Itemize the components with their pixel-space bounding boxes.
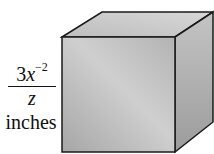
numerator-variable: x [26,63,35,85]
cube-side-face [175,12,213,152]
cube-front-face [62,37,175,152]
fraction-denominator: z [4,88,60,108]
numerator-exponent: −2 [35,60,48,74]
fraction-numerator: 3x−2 [4,58,60,85]
side-length-fraction: 3x−2 z [4,58,60,108]
numerator-coefficient: 3 [16,63,26,85]
units-label: inches [0,111,62,133]
